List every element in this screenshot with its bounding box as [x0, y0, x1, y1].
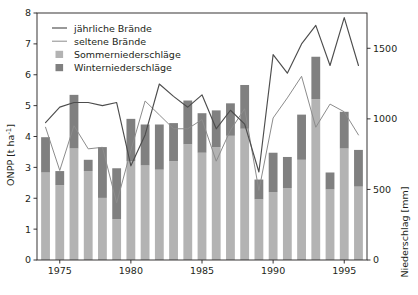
- bar-winterniederschlaege: [98, 147, 107, 198]
- bar-winterniederschlaege: [311, 57, 320, 99]
- bar-sommerniederschlaege: [240, 129, 249, 260]
- bar-winterniederschlaege: [283, 157, 292, 188]
- bar-sommerniederschlaege: [212, 147, 221, 260]
- bar-sommerniederschlaege: [340, 149, 349, 261]
- bar-winterniederschlaege: [41, 137, 50, 172]
- y-tick-label: 7: [25, 38, 31, 49]
- bar-sommerniederschlaege: [226, 136, 235, 260]
- right-axis-ticks: 050010001500: [367, 43, 397, 266]
- bar-sommerniederschlaege: [126, 161, 135, 260]
- bar-sommerniederschlaege: [55, 185, 64, 260]
- bar-sommerniederschlaege: [169, 161, 178, 260]
- left-axis-ticks: 012345678: [25, 7, 37, 265]
- y-tick-label: 4: [25, 131, 31, 142]
- bar-sommerniederschlaege: [254, 199, 263, 260]
- left-axis-title-superscript: -1: [5, 128, 13, 135]
- y2-tick-label: 500: [373, 184, 391, 195]
- y-tick-label: 0: [25, 254, 31, 265]
- bar-winterniederschlaege: [269, 153, 278, 193]
- bar-sommerniederschlaege: [112, 219, 121, 260]
- legend-square-marker: [56, 64, 64, 71]
- x-tick-label: 1990: [261, 265, 285, 276]
- x-tick-label: 1980: [119, 265, 143, 276]
- x-tick-label: 1985: [190, 265, 214, 276]
- bar-winterniederschlaege: [326, 172, 335, 189]
- bar-winterniederschlaege: [84, 160, 93, 171]
- y-tick-label: 3: [25, 162, 31, 173]
- left-axis-title-tail: ]: [5, 124, 16, 128]
- bar-sommerniederschlaege: [297, 160, 306, 260]
- legend-label: jährliche Brände: [73, 23, 152, 34]
- bar-sommerniederschlaege: [155, 170, 164, 260]
- x-tick-label: 1995: [332, 265, 356, 276]
- bar-winterniederschlaege: [297, 115, 306, 160]
- bar-sommerniederschlaege: [41, 172, 50, 260]
- right-axis-title: Niederschlag [mm]: [399, 187, 410, 278]
- bar-winterniederschlaege: [55, 171, 64, 185]
- bar-winterniederschlaege: [354, 150, 363, 187]
- bar-sommerniederschlaege: [70, 149, 79, 261]
- y-tick-label: 5: [25, 100, 31, 111]
- bar-sommerniederschlaege: [141, 165, 150, 260]
- legend-square-marker: [56, 51, 64, 58]
- bar-sommerniederschlaege: [283, 188, 292, 260]
- bar-winterniederschlaege: [155, 125, 164, 170]
- left-axis-title: ONPP [t ha-1]: [5, 124, 16, 186]
- bar-sommerniederschlaege: [311, 99, 320, 260]
- chart-figure: 012345678 050010001500 19751980198519901…: [0, 0, 418, 295]
- bar-sommerniederschlaege: [183, 144, 192, 260]
- y2-tick-label: 1000: [373, 113, 397, 124]
- x-axis-ticks: 19751980198519901995: [48, 260, 357, 276]
- y-tick-label: 8: [25, 7, 31, 18]
- bar-sommerniederschlaege: [198, 153, 207, 260]
- bar-sommerniederschlaege: [326, 189, 335, 260]
- y2-tick-label: 1500: [373, 43, 397, 54]
- bar-winterniederschlaege: [141, 125, 150, 166]
- y-tick-label: 6: [25, 69, 31, 80]
- bar-sommerniederschlaege: [354, 187, 363, 260]
- legend-label: seltene Brände: [74, 36, 146, 47]
- y2-tick-label: 0: [373, 254, 379, 265]
- legend-label: Winterniederschläge: [74, 62, 172, 73]
- onpp-niederschlag-combo-chart: 012345678 050010001500 19751980198519901…: [0, 0, 418, 295]
- bar-sommerniederschlaege: [84, 171, 93, 260]
- bar-winterniederschlaege: [112, 168, 121, 219]
- bar-winterniederschlaege: [240, 85, 249, 129]
- left-axis-title-main: ONPP [t ha: [5, 135, 16, 186]
- y-tick-label: 1: [25, 224, 31, 235]
- bar-sommerniederschlaege: [98, 198, 107, 260]
- y-tick-label: 2: [25, 193, 31, 204]
- bar-sommerniederschlaege: [269, 192, 278, 260]
- x-tick-label: 1975: [48, 265, 72, 276]
- legend-label: Sommerniederschläge: [74, 49, 181, 60]
